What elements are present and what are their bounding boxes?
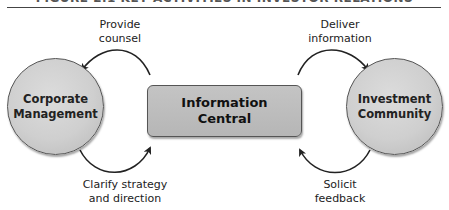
node-label: Investment Community xyxy=(358,92,432,122)
label-solicit-feedback: Solicit feedback xyxy=(300,178,380,206)
node-investment-community: Investment Community xyxy=(346,58,443,155)
node-label: Information Central xyxy=(181,95,267,127)
label-clarify-strategy: Clarify strategy and direction xyxy=(70,178,180,206)
label-provide-counsel: Provide counsel xyxy=(80,18,160,46)
arrow-provide-counsel xyxy=(82,50,150,75)
arrow-solicit-feedback xyxy=(300,150,370,173)
node-label: Corporate Management xyxy=(13,92,98,122)
label-deliver-information: Deliver information xyxy=(295,18,385,46)
arrow-deliver-information xyxy=(298,50,368,75)
node-information-central: Information Central xyxy=(147,85,302,137)
arrow-clarify-strategy xyxy=(80,148,150,172)
node-corporate-management: Corporate Management xyxy=(7,58,104,155)
